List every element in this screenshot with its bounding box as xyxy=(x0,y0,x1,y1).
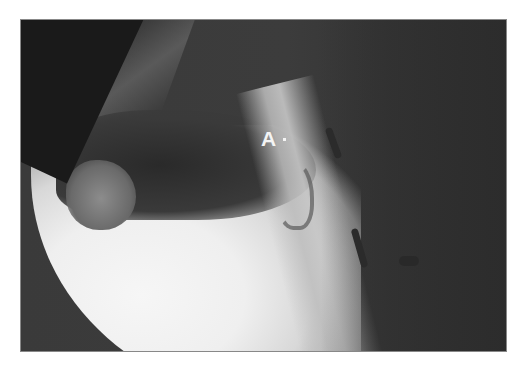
annotation-label-a: A xyxy=(261,128,276,149)
posterior-neck-shadow xyxy=(321,20,507,351)
page: A xyxy=(0,0,521,366)
vertebra-mark xyxy=(399,256,419,266)
radiograph-image: A xyxy=(20,19,507,352)
annotation-pointer-dot xyxy=(283,138,286,141)
